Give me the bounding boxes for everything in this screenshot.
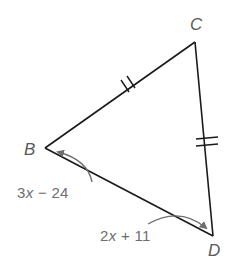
angle-arrow-b (58, 152, 92, 182)
angle-b-rest: − 24 (33, 184, 68, 201)
vertex-label-c: C (190, 16, 202, 33)
side-bc (45, 42, 195, 148)
side-bd (45, 148, 213, 236)
congruence-ticks-bc (121, 76, 135, 92)
triangle-diagram (0, 0, 228, 263)
congruence-ticks-cd (196, 137, 218, 146)
vertex-label-b: B (24, 141, 35, 158)
angle-d-rest: + 11 (116, 227, 150, 244)
angle-b-coef: 3 (17, 184, 26, 201)
angle-label-d: 2x + 11 (100, 228, 151, 243)
vertex-label-d: D (208, 242, 220, 259)
angle-d-coef: 2 (100, 227, 109, 244)
angle-label-b: 3x − 24 (17, 185, 69, 200)
